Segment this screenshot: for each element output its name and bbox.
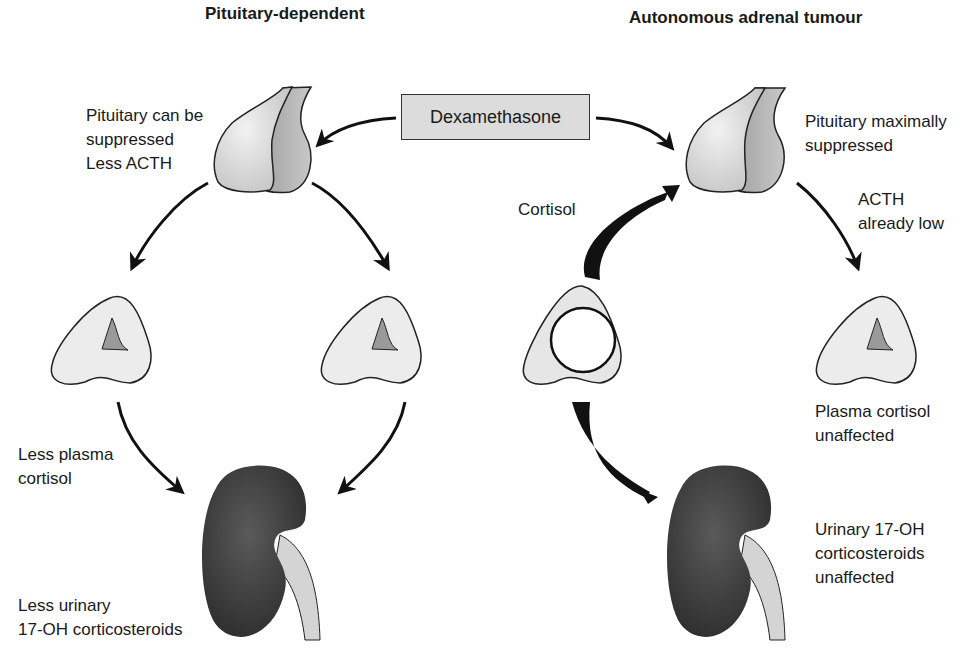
arrow-acth-to-right-adrenal <box>797 183 858 268</box>
acth-label: ACTH already low <box>858 188 944 236</box>
kidney-icon-right <box>667 466 785 640</box>
pituitary-gland-icon-left <box>214 87 311 193</box>
adrenal-gland-icon-right <box>816 296 916 384</box>
right-pituitary-label: Pituitary maximally suppressed <box>805 110 947 158</box>
left-pituitary-label: Pituitary can be suppressed Less ACTH <box>86 104 203 176</box>
arrow-left-pituitary-to-adrenal-2 <box>312 183 388 268</box>
arrow-cortisol-feedback <box>584 192 668 280</box>
adrenal-tumour-icon <box>523 286 621 384</box>
arrow-left-adrenal-to-kidney <box>118 402 182 492</box>
left-urinary-label: Less urinary 17-OH corticosteroids <box>18 594 182 642</box>
kidney-icon-left <box>202 466 320 640</box>
left-panel-title: Pituitary-dependent <box>205 4 365 24</box>
right-plasma-label: Plasma cortisol unaffected <box>815 400 930 448</box>
arrow-tumour-to-kidney <box>572 402 650 498</box>
dexamethasone-label: Dexamethasone <box>430 107 561 128</box>
adrenal-gland-icon-middle <box>321 296 421 384</box>
pituitary-gland-icon-right <box>686 88 785 193</box>
right-urinary-label: Urinary 17-OH corticosteroids unaffected <box>815 518 925 590</box>
arrow-middle-adrenal-to-kidney <box>340 402 405 492</box>
arrow-dex-to-right-pituitary <box>596 118 672 148</box>
arrow-left-pituitary-to-adrenal <box>132 183 208 268</box>
cortisol-label: Cortisol <box>518 198 576 222</box>
arrow-dex-to-left-pituitary <box>318 118 396 145</box>
adrenal-gland-icon-left <box>51 296 151 384</box>
right-panel-title: Autonomous adrenal tumour <box>629 8 862 28</box>
left-plasma-label: Less plasma cortisol <box>18 443 113 491</box>
dexamethasone-box: Dexamethasone <box>401 94 590 140</box>
